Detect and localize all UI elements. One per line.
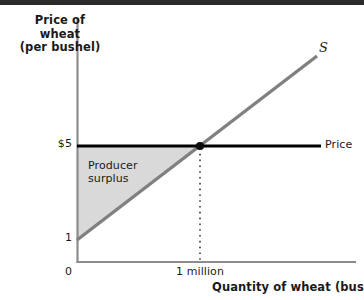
producer-surplus-label-line-2: surplus xyxy=(88,172,129,185)
y-axis-title-line-1: Price of xyxy=(35,13,85,27)
y-axis-title-line-2: wheat xyxy=(40,27,80,41)
y-axis-title-line-3: (per bushel) xyxy=(20,40,101,54)
producer-surplus-chart: Price ofwheat(per bushel) Quantity of wh… xyxy=(0,0,364,300)
y-axis-title: Price ofwheat(per bushel) xyxy=(8,14,112,55)
x-tick-label-one-million: 1 million xyxy=(166,266,234,279)
equilibrium-point xyxy=(196,142,204,150)
x-axis-title: Quantity of wheat (bushels) xyxy=(212,281,362,295)
y-tick-label-price: $5 xyxy=(46,138,72,151)
origin-label: 0 xyxy=(50,266,72,279)
supply-curve-label: S xyxy=(319,40,328,55)
producer-surplus-label-line-1: Producer xyxy=(88,159,138,172)
y-tick-label-one: 1 xyxy=(50,232,72,245)
price-line-label: Price xyxy=(325,139,352,152)
producer-surplus-label: Producersurplus xyxy=(88,160,164,186)
